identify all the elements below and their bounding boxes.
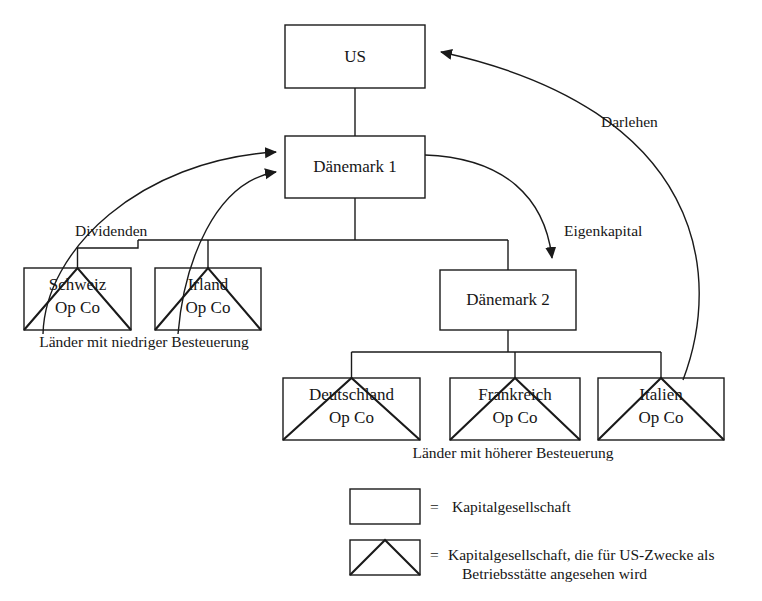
legend-label-corporation: Kapitalgesellschaft bbox=[452, 497, 571, 516]
group-label-low-tax: Länder mit niedriger Besteuerung bbox=[4, 333, 284, 351]
node-box-irland[interactable] bbox=[155, 268, 261, 330]
node-box-italien[interactable] bbox=[598, 378, 724, 440]
node-box-deutschland[interactable] bbox=[283, 378, 420, 440]
legend-label-branch-line1: Kapitalgesellschaft, die für US-Zwecke a… bbox=[448, 545, 714, 564]
arrow-eigenkapital bbox=[425, 155, 552, 258]
node-box-daenemark1[interactable] bbox=[285, 136, 425, 198]
node-box-schweiz[interactable] bbox=[24, 268, 131, 330]
edge-label-dividenden: Dividenden bbox=[75, 222, 147, 240]
connector-bus-to-schweiz bbox=[78, 240, 139, 268]
arrow-darlehen bbox=[441, 52, 699, 380]
node-box-us[interactable] bbox=[285, 25, 425, 88]
legend-equals-1: = bbox=[430, 497, 439, 516]
legend-shape-rectangle-2 bbox=[350, 540, 420, 575]
diagram-canvas bbox=[0, 0, 762, 601]
edge-label-eigenkapital: Eigenkapital bbox=[564, 222, 642, 240]
legend-label-branch-line2: Betriebsstätte angesehen wird bbox=[462, 564, 647, 583]
legend-shape-rectangle bbox=[350, 489, 420, 524]
node-box-daenemark2[interactable] bbox=[440, 270, 576, 330]
org-chart-diagram: US Dänemark 1 Dänemark 2 Schweiz Op Co I… bbox=[0, 0, 762, 601]
edge-label-darlehen: Darlehen bbox=[601, 113, 658, 131]
node-box-frankreich[interactable] bbox=[450, 378, 580, 440]
group-label-high-tax: Länder mit höherer Besteuerung bbox=[343, 444, 683, 462]
legend-equals-2: = bbox=[430, 545, 439, 564]
